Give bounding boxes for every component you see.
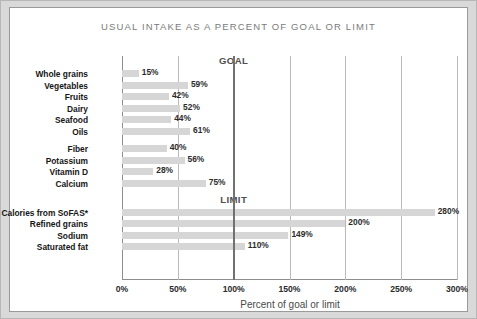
bar: [122, 232, 288, 239]
bar: [122, 209, 435, 216]
bar: [122, 180, 206, 187]
bar-value-label: 15%: [139, 67, 159, 77]
category-label: Potassium: [0, 156, 88, 166]
bar-row: 42%: [122, 91, 457, 103]
category-label: Saturated fat: [0, 242, 88, 252]
bar-row: 28%: [122, 166, 457, 178]
plot-area: 15%59%42%52%44%61%40%56%28%75%280%200%14…: [122, 56, 457, 280]
bar: [122, 116, 171, 123]
bar: [122, 70, 139, 77]
bar-value-label: 75%: [206, 177, 226, 187]
bar: [122, 145, 167, 152]
bar-value-label: 61%: [190, 125, 210, 135]
bar-row: 44%: [122, 114, 457, 126]
category-label: Seafood: [0, 115, 88, 125]
bar: [122, 93, 169, 100]
category-label: Whole grains: [0, 69, 88, 79]
category-label: Vegetables: [0, 81, 88, 91]
bar-value-label: 110%: [245, 240, 269, 250]
bar-value-label: 280%: [435, 206, 459, 216]
bar: [122, 168, 153, 175]
bar-row: 149%: [122, 230, 457, 242]
bar-value-label: 52%: [180, 102, 200, 112]
chart-title: USUAL INTAKE AS A PERCENT OF GOAL OR LIM…: [10, 21, 467, 32]
category-label: Fiber: [0, 144, 88, 154]
category-label: Refined grains: [0, 219, 88, 229]
category-label: Calories from SoFAS*: [0, 208, 88, 218]
chart-card: USUAL INTAKE AS A PERCENT OF GOAL OR LIM…: [9, 7, 468, 312]
bar: [122, 128, 190, 135]
bar: [122, 105, 180, 112]
x-tick-label: 300%: [446, 284, 468, 294]
bar: [122, 157, 185, 164]
group-heading-eat-more: Eat more of these:: [0, 55, 88, 66]
bar-row: 75%: [122, 178, 457, 190]
bar-row: 15%: [122, 68, 457, 80]
category-label: Calcium: [0, 179, 88, 189]
bar-value-label: 59%: [188, 79, 208, 89]
bar: [122, 82, 188, 89]
category-label: Oils: [0, 127, 88, 137]
bar-value-label: 200%: [345, 217, 369, 227]
bar-value-label: 149%: [288, 229, 312, 239]
category-label: Dairy: [0, 104, 88, 114]
bar-value-label: 44%: [171, 113, 191, 123]
bar-value-label: 40%: [167, 142, 187, 152]
category-label: Fruits: [0, 92, 88, 102]
bar-row: 280%: [122, 207, 457, 219]
bar-value-label: 42%: [169, 90, 189, 100]
category-label: Sodium: [0, 231, 88, 241]
category-label: Vitamin D: [0, 167, 88, 177]
x-tick-label: 100%: [223, 284, 245, 294]
group-heading-eat-less: Eat less of these:: [0, 194, 88, 205]
x-tick-label: 50%: [169, 284, 186, 294]
reference-line-100: [233, 56, 235, 280]
bar-row: 61%: [122, 126, 457, 138]
bar-value-label: 56%: [185, 154, 205, 164]
x-tick-label: 150%: [279, 284, 301, 294]
x-tick-label: 250%: [390, 284, 412, 294]
x-tick-label: 0%: [116, 284, 128, 294]
bar-row: 40%: [122, 143, 457, 155]
x-axis-title: Percent of goal or limit: [122, 299, 458, 310]
gridline-300: [457, 56, 458, 280]
bar-value-label: 28%: [153, 165, 173, 175]
x-tick-label: 200%: [334, 284, 356, 294]
chart-image: USUAL INTAKE AS A PERCENT OF GOAL OR LIM…: [0, 0, 477, 319]
bar: [122, 243, 245, 250]
bar-row: 110%: [122, 241, 457, 253]
